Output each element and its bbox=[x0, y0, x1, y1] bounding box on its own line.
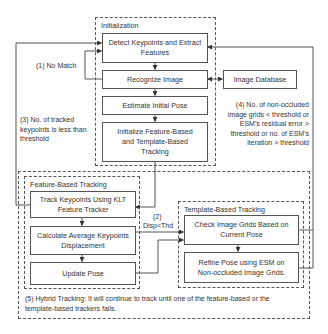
initialization-group-title: Initialization bbox=[101, 21, 139, 30]
node-detect-keypoints: Detect Keypoints and Extract Features bbox=[102, 33, 208, 63]
annotation-non-occluded-grids: (4) No. of non-occluded image grids < th… bbox=[220, 100, 309, 148]
node-refine-pose-esm: Refine Pose using ESM on Non-occluded Im… bbox=[184, 252, 299, 283]
annotation-hybrid-tracking: (5) Hybrid Tracking: It will continue to… bbox=[25, 294, 295, 313]
node-track-keypoints-klt: Track Keypoints Using KLT Feature Tracke… bbox=[30, 191, 136, 218]
node-estimate-initial-pose: Estimate Initial Pose bbox=[102, 96, 208, 115]
annotation-tracked-keypoints: (3) No. of tracked keypoints is less tha… bbox=[20, 115, 90, 144]
node-image-database: Image Database bbox=[223, 70, 297, 89]
feature-based-group-title: Feature-Based Tracking bbox=[30, 180, 107, 189]
node-check-image-grids: Check Image Grids Based on Current Pose bbox=[184, 215, 299, 245]
node-update-pose: Update Pose bbox=[30, 262, 136, 285]
node-recognize-image: Recognize Image bbox=[102, 70, 208, 89]
annotation-no-match: (1) No Match bbox=[36, 61, 76, 71]
annotation-disp-condition: Disp<Thd bbox=[143, 221, 173, 231]
template-based-group-title: Template-Based Tracking bbox=[184, 205, 265, 214]
node-initialize-tracking: Initialize Feature-Based and Template-Ba… bbox=[102, 122, 208, 162]
node-calculate-displacement: Calculate Average Keypoints Displacement bbox=[30, 226, 136, 255]
